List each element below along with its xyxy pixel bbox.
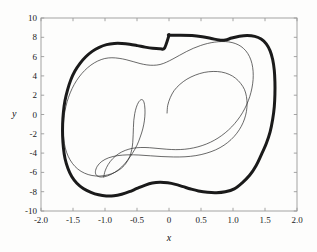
y-tick-label: -6 [16,168,37,177]
x-tick-label: 1.5 [259,216,270,225]
y-tick-label: 2 [16,91,37,100]
x-tick-label: 0.5 [195,216,206,225]
curve-limit-cycle [63,34,275,196]
x-tick-label: 2.0 [291,216,302,225]
y-tick-label: -2 [16,129,37,138]
y-tick-label: 4 [16,71,37,80]
y-tick-label: -10 [16,207,37,216]
data-series-layer [63,34,275,196]
x-tick-label: -2.0 [34,216,48,225]
x-tick-label: -1.0 [98,216,112,225]
x-tick-label: 0 [167,216,172,225]
y-tick-label: 0 [16,110,37,119]
y-tick-label: -4 [16,149,37,158]
phase-portrait-figure: -2.0-1.5-1.0-0.500.51.01.52.0 1086420-2-… [0,0,317,252]
y-tick-label: 8 [16,33,37,42]
y-axis-title: y [12,109,16,119]
y-tick-label: 6 [16,52,37,61]
y-tick-label: 10 [16,14,37,23]
x-tick-label: -1.5 [66,216,80,225]
y-tick-label: -8 [16,187,37,196]
curve-transient-trajectory [63,42,253,177]
x-tick-label: -0.5 [130,216,144,225]
x-axis-title: x [167,233,171,243]
x-tick-label: 1.0 [227,216,238,225]
